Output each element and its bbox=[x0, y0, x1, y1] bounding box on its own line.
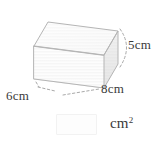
unit-exponent: 2 bbox=[129, 115, 134, 125]
figure-canvas: 6cm 8cm 5cm cm2 bbox=[0, 0, 168, 149]
unit-label: cm2 bbox=[110, 115, 133, 131]
answer-row: cm2 bbox=[56, 112, 161, 136]
answer-input[interactable] bbox=[56, 114, 97, 135]
depth-leader-line bbox=[63, 89, 99, 95]
unit-text: cm bbox=[110, 115, 128, 131]
dimension-label-width: 6cm bbox=[6, 89, 29, 102]
corner-leader-line bbox=[36, 82, 39, 87]
width-leader-line bbox=[38, 87, 55, 91]
height-leader-arc bbox=[120, 29, 127, 67]
dimension-label-height: 5cm bbox=[128, 38, 151, 51]
dimension-label-depth: 8cm bbox=[101, 82, 124, 95]
